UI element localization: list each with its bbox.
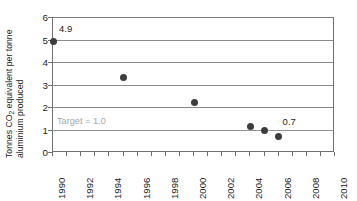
y-axis-title-line2: aluminium produced — [15, 80, 26, 158]
x-tick-mark — [264, 152, 265, 156]
y-axis-title-subscript: 2 — [8, 111, 15, 115]
x-tick-label: 2008 — [310, 178, 321, 199]
x-tick-label: 1996 — [141, 178, 152, 199]
y-axis-tick-labels: 0123456 — [32, 17, 48, 152]
data-point-label: 4.9 — [59, 23, 72, 34]
target-reference-line — [53, 130, 333, 131]
x-tick-mark — [151, 152, 152, 156]
x-tick-label: 2002 — [225, 178, 236, 199]
x-tick-mark — [320, 152, 321, 156]
y-tick-label: 1 — [34, 124, 48, 135]
gridline-5 — [53, 40, 333, 41]
x-tick-mark — [165, 152, 166, 156]
x-tick-mark — [193, 152, 194, 156]
data-point — [120, 74, 127, 81]
x-tick-mark — [108, 152, 109, 156]
gridline-3 — [53, 85, 333, 86]
x-tick-mark — [334, 152, 335, 156]
data-point — [261, 127, 268, 134]
data-point — [50, 38, 57, 45]
x-tick-label: 1998 — [169, 178, 180, 199]
x-tick-mark — [306, 152, 307, 156]
y-tick-label: 5 — [34, 34, 48, 45]
gridline-6 — [53, 17, 333, 18]
x-tick-label: 2004 — [253, 178, 264, 199]
x-tick-mark — [123, 152, 124, 156]
x-tick-mark — [94, 152, 95, 156]
x-axis-tick-labels: 1990199219941996199820002002200420062008… — [52, 157, 334, 201]
x-tick-mark — [179, 152, 180, 156]
y-axis-title-text-b: equivalent per tonne — [4, 30, 14, 111]
x-tick-mark — [278, 152, 279, 156]
x-tick-mark — [207, 152, 208, 156]
data-point — [247, 123, 254, 130]
data-point — [275, 133, 282, 140]
x-tick-mark — [52, 152, 53, 156]
x-tick-mark — [249, 152, 250, 156]
x-tick-label: 1990 — [56, 178, 67, 199]
x-tick-label: 1994 — [112, 178, 123, 199]
y-axis-title: Tonnes CO2 equivalent per tonne aluminiu… — [0, 0, 34, 160]
data-point-label: 0.7 — [283, 116, 296, 127]
target-label: Target = 1.0 — [57, 116, 106, 126]
x-tick-label: 2010 — [338, 178, 349, 199]
x-tick-mark — [137, 152, 138, 156]
x-tick-label: 2000 — [197, 178, 208, 199]
x-tick-mark — [80, 152, 81, 156]
data-point — [191, 99, 198, 106]
x-tick-mark — [221, 152, 222, 156]
x-tick-mark — [66, 152, 67, 156]
y-tick-label: 4 — [34, 57, 48, 68]
chart-figure: Tonnes CO2 equivalent per tonne aluminiu… — [0, 0, 357, 201]
y-tick-label: 2 — [34, 102, 48, 113]
y-axis-title-line1: Tonnes CO2 equivalent per tonne — [4, 30, 15, 159]
plot-area: Target = 1.04.90.7 — [52, 17, 334, 152]
y-tick-label: 0 — [34, 147, 48, 158]
x-tick-label: 1992 — [84, 178, 95, 199]
x-tick-label: 2006 — [282, 178, 293, 199]
y-axis-title-text-a: Tonnes CO — [4, 115, 14, 158]
x-tick-mark — [292, 152, 293, 156]
x-tick-mark — [235, 152, 236, 156]
gridline-4 — [53, 62, 333, 63]
gridline-2 — [53, 107, 333, 108]
y-tick-label: 6 — [34, 12, 48, 23]
y-tick-label: 3 — [34, 79, 48, 90]
